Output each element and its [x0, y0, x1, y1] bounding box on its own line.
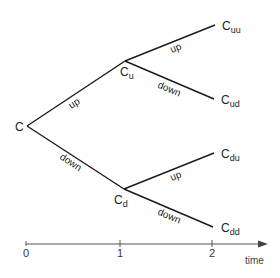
time-axis: 0 1 2 time [23, 240, 268, 266]
edge-root-up [27, 61, 125, 126]
tick-label-2: 2 [209, 247, 215, 259]
edge-d-up [124, 153, 214, 189]
axis-title: time [245, 255, 264, 266]
node-root: C [15, 120, 24, 134]
binomial-tree-diagram: up down up down up down C Cu Cd Cuu Cud … [0, 0, 280, 278]
tick-label-1: 1 [117, 247, 123, 259]
edge-label-d-down: down [156, 206, 182, 225]
node-labels: C Cu Cd Cuu Cud Cdu Cdd [15, 19, 241, 237]
edge-u-up [125, 25, 215, 61]
node-ud: Cud [221, 93, 240, 109]
node-d: Cd [114, 193, 128, 209]
node-du: Cdu [221, 147, 240, 163]
axis-arrow-icon [258, 241, 268, 248]
node-dd: Cdd [221, 221, 240, 237]
node-uu: Cuu [222, 19, 241, 35]
tick-label-0: 0 [23, 247, 29, 259]
node-u: Cu [120, 65, 134, 81]
edge-label-u-down: down [156, 79, 182, 98]
